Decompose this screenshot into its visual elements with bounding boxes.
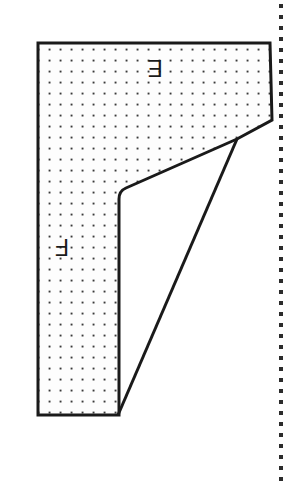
- label-f-text: F: [55, 234, 69, 260]
- perforation-dot: [279, 378, 283, 382]
- label-e-group: E: [147, 55, 162, 81]
- perforation-dot: [279, 235, 283, 239]
- polygon-fill-group: [0, 0, 289, 483]
- perforation-dot: [279, 81, 283, 85]
- figure-svg: E F: [0, 0, 289, 483]
- perforation-dot: [279, 202, 283, 206]
- perforation-dot: [279, 433, 283, 437]
- perforation-dot: [279, 477, 283, 481]
- perforation-dot: [279, 455, 283, 459]
- diagram-canvas: E F: [0, 0, 289, 483]
- perforation-dot: [279, 257, 283, 261]
- perforation-dot: [279, 356, 283, 360]
- page-edge-perforation: [279, 4, 283, 481]
- perforation-dot: [279, 290, 283, 294]
- perforation-dot: [279, 466, 283, 470]
- perforation-dot: [279, 279, 283, 283]
- perforation-dot: [279, 213, 283, 217]
- perforation-dot: [279, 345, 283, 349]
- perforation-dot: [279, 15, 283, 19]
- perforation-dot: [279, 70, 283, 74]
- perforation-dot: [279, 400, 283, 404]
- perforation-dot: [279, 246, 283, 250]
- perforation-dot: [279, 92, 283, 96]
- perforation-dot: [279, 59, 283, 63]
- perforation-dot: [279, 334, 283, 338]
- perforation-dot: [279, 411, 283, 415]
- perforation-dot: [279, 312, 283, 316]
- perforation-dot: [279, 26, 283, 30]
- perforation-dot: [279, 422, 283, 426]
- perforation-dot: [279, 158, 283, 162]
- perforation-dot: [279, 367, 283, 371]
- perforation-dot: [279, 224, 283, 228]
- perforation-dot: [279, 4, 283, 8]
- perforation-dot: [279, 389, 283, 393]
- perforation-dot: [279, 125, 283, 129]
- perforation-dot: [279, 191, 283, 195]
- perforation-dot: [279, 268, 283, 272]
- label-f-group: F: [55, 234, 69, 260]
- perforation-dot: [279, 103, 283, 107]
- perforation-dot: [279, 48, 283, 52]
- perforation-dot: [279, 323, 283, 327]
- polygon-dot-fill: [0, 0, 289, 483]
- perforation-dot: [279, 301, 283, 305]
- perforation-dot: [279, 136, 283, 140]
- perforation-dot: [279, 147, 283, 151]
- perforation-dot: [279, 114, 283, 118]
- label-e-text: E: [147, 55, 162, 81]
- perforation-dot: [279, 444, 283, 448]
- perforation-dot: [279, 180, 283, 184]
- perforation-dot: [279, 37, 283, 41]
- perforation-dot: [279, 169, 283, 173]
